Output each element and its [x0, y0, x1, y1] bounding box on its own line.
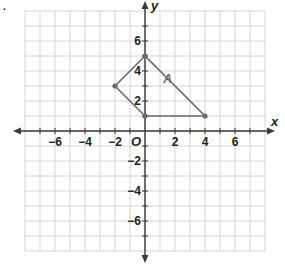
y-axis-label: y	[150, 0, 159, 13]
bullet-marker: .	[3, 1, 6, 12]
x-tick-label: −4	[78, 135, 92, 149]
origin-label: O	[131, 134, 141, 149]
vertex-point	[142, 113, 147, 118]
coordinate-plane: . −6−4−2246−6−4−2246Oxy A	[0, 0, 285, 267]
x-axis-label: x	[270, 114, 279, 129]
shape-label: A	[162, 72, 172, 86]
y-tick-label: 6	[134, 34, 141, 48]
y-tick-label: −2	[127, 154, 141, 168]
vertex-point	[202, 113, 207, 118]
x-tick-label: 6	[232, 135, 239, 149]
y-tick-label: −6	[127, 214, 141, 228]
x-tick-label: 2	[172, 135, 179, 149]
y-tick-label: −4	[127, 184, 141, 198]
axes	[13, 1, 275, 263]
x-tick-label: 4	[202, 135, 209, 149]
vertex-point	[112, 83, 117, 88]
x-tick-label: −6	[48, 135, 62, 149]
tick-labels: −6−4−2246−6−4−2246Oxy	[48, 0, 279, 228]
vertex-point	[142, 53, 147, 58]
y-axis-up-arrow-icon	[142, 1, 149, 9]
y-axis-down-arrow-icon	[142, 255, 149, 263]
x-axis-left-arrow-icon	[13, 128, 21, 135]
x-tick-label: −2	[108, 135, 122, 149]
